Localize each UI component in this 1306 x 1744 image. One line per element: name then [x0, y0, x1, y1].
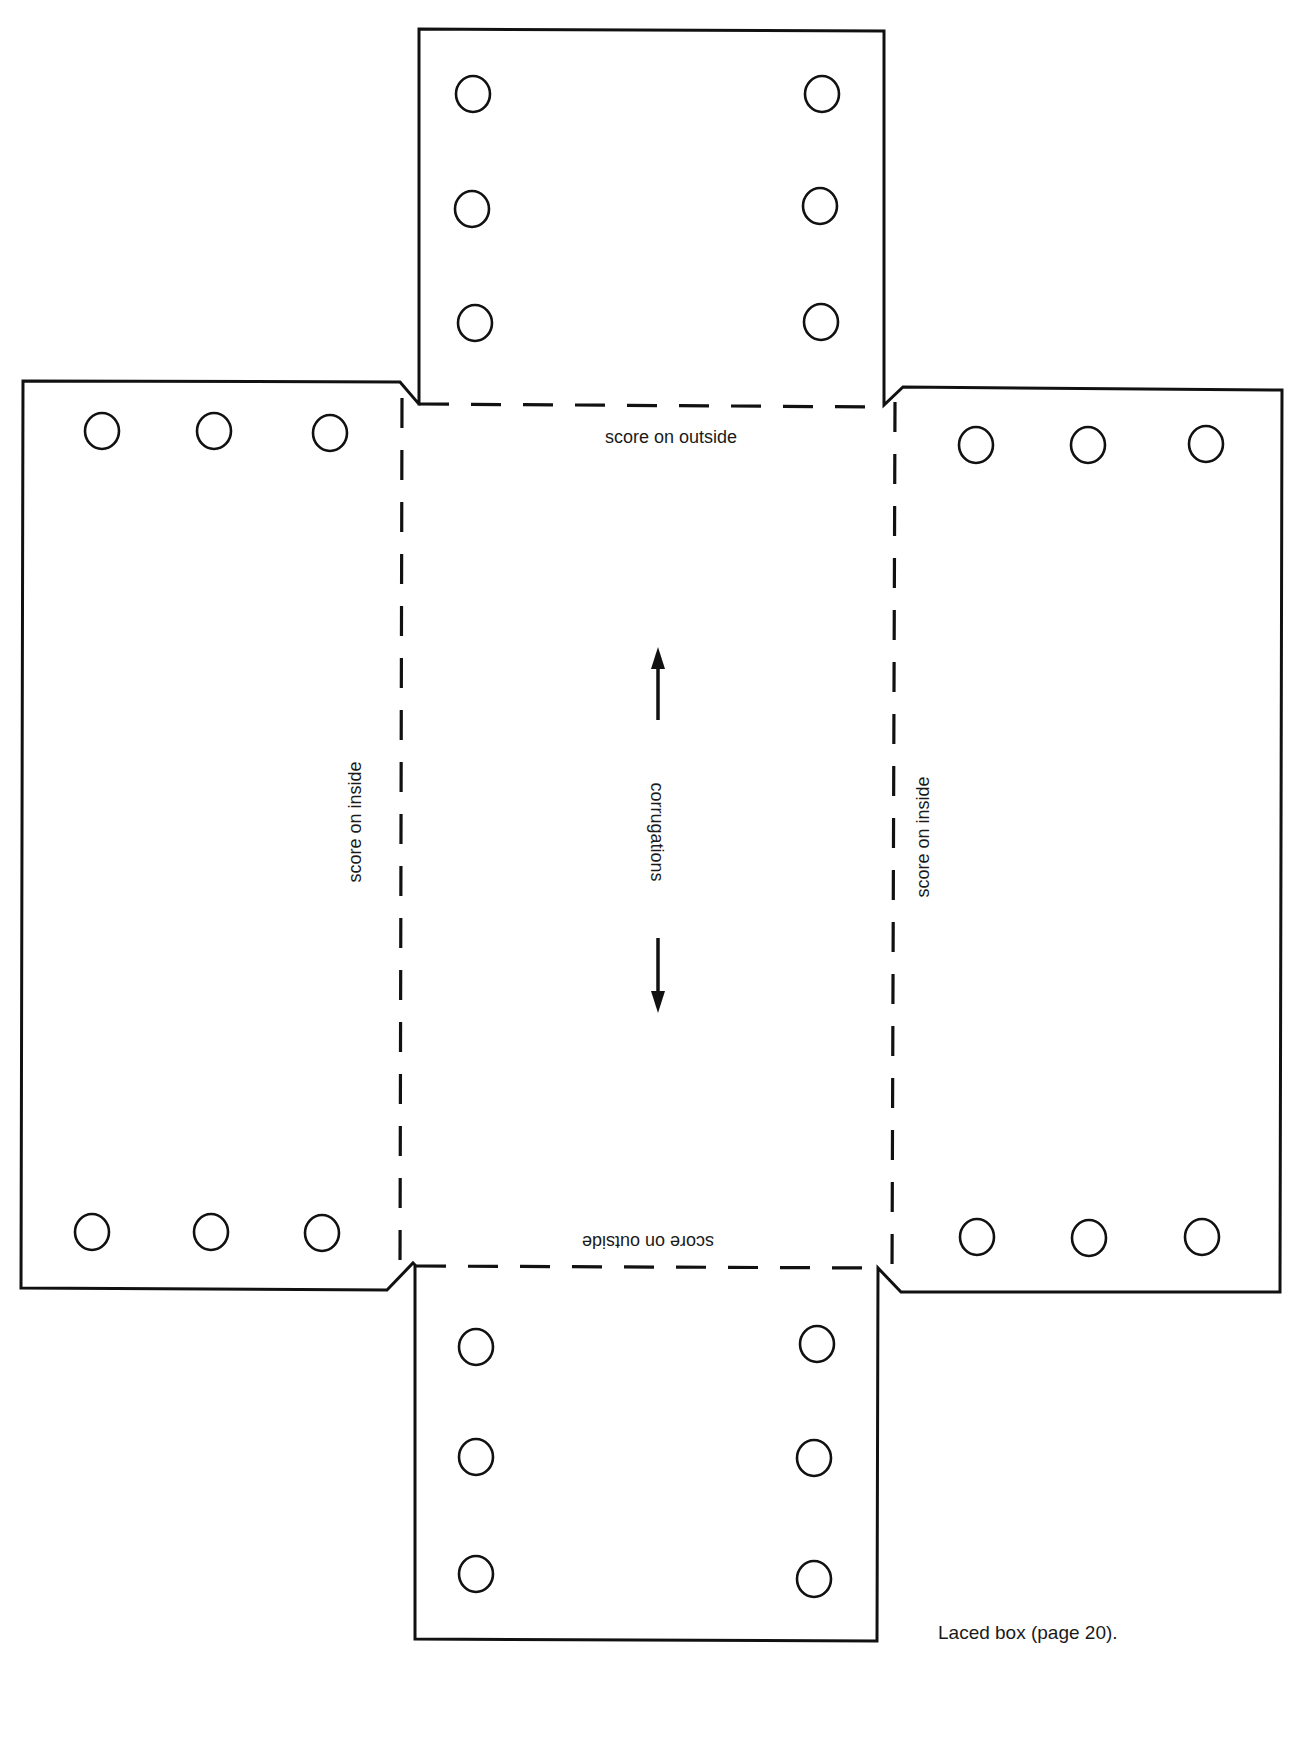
lacing-hole-top-flap: [456, 76, 490, 112]
lacing-hole-bottom-flap: [459, 1556, 493, 1592]
bottom-fold-label: score on outside: [582, 1232, 714, 1252]
fold-line-right: [892, 402, 895, 1276]
lacing-hole-right-flap: [960, 1219, 994, 1255]
arrow-down-icon: [651, 991, 665, 1013]
lacing-hole-top-flap: [805, 76, 839, 112]
arrow-up-icon: [651, 647, 665, 669]
corrugations-label: corrugations: [647, 782, 667, 881]
lacing-hole-top-flap: [803, 188, 837, 224]
lacing-hole-bottom-flap: [459, 1329, 493, 1365]
lacing-hole-left-flap: [194, 1214, 228, 1250]
fold-line-left: [400, 398, 402, 1272]
lacing-hole-left-flap: [313, 415, 347, 451]
corrugation-direction: corrugations: [647, 647, 667, 1013]
fold-line-bottom: [416, 1266, 878, 1268]
figure-caption: Laced box (page 20).: [938, 1622, 1118, 1644]
lacing-hole-left-flap: [305, 1215, 339, 1251]
top-fold-label: score on outside: [605, 427, 737, 447]
left-fold-label: score on inside: [345, 761, 365, 882]
lacing-hole-bottom-flap: [459, 1439, 493, 1475]
lacing-hole-right-flap: [1072, 1220, 1106, 1256]
lacing-hole-left-flap: [85, 413, 119, 449]
lacing-hole-right-flap: [959, 427, 993, 463]
lacing-hole-bottom-flap: [800, 1326, 834, 1362]
lacing-hole-left-flap: [75, 1214, 109, 1250]
lacing-hole-top-flap: [458, 305, 492, 341]
lacing-hole-right-flap: [1189, 426, 1223, 462]
laced-box-template: score on outside score on outside score …: [0, 0, 1306, 1744]
lacing-hole-left-flap: [197, 413, 231, 449]
lacing-hole-top-flap: [455, 191, 489, 227]
lacing-hole-bottom-flap: [797, 1561, 831, 1597]
lacing-hole-right-flap: [1185, 1219, 1219, 1255]
lacing-hole-top-flap: [804, 304, 838, 340]
lacing-hole-bottom-flap: [797, 1440, 831, 1476]
right-fold-label: score on inside: [913, 776, 933, 897]
lacing-hole-right-flap: [1071, 427, 1105, 463]
fold-line-top: [419, 404, 884, 407]
